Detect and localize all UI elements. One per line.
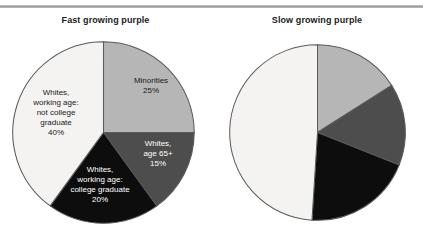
pie-chart-right	[226, 41, 409, 224]
pie-chart-panels: Fast growing purple Minorities 25% White…	[0, 0, 423, 241]
pie-slice-not-college-graduate-right[interactable]	[230, 45, 318, 221]
chart-panel-slow-growing-purple: Slow growing purple Minorities 16% White…	[211, 0, 423, 241]
pie-svg-left	[9, 38, 198, 227]
chart-title-right: Slow growing purple	[211, 15, 423, 25]
chart-panel-fast-growing-purple: Fast growing purple Minorities 25% White…	[0, 0, 211, 241]
pie-chart-left	[9, 38, 198, 227]
chart-title-left: Fast growing purple	[0, 15, 211, 25]
pie-svg-right	[226, 41, 409, 224]
pie-slice-minorities-left[interactable]	[104, 42, 195, 133]
